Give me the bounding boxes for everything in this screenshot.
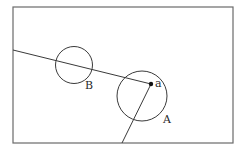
circle-b-label: B xyxy=(85,79,93,92)
circle-a-label: A xyxy=(162,113,172,126)
point-a-dot xyxy=(149,82,153,86)
diagram-frame xyxy=(13,7,233,143)
line-point-to-bottom-edge xyxy=(122,84,151,143)
point-a-label: a xyxy=(155,77,162,90)
line-point-to-left-edge xyxy=(13,50,151,84)
diagram-canvas: A B a xyxy=(0,0,244,150)
